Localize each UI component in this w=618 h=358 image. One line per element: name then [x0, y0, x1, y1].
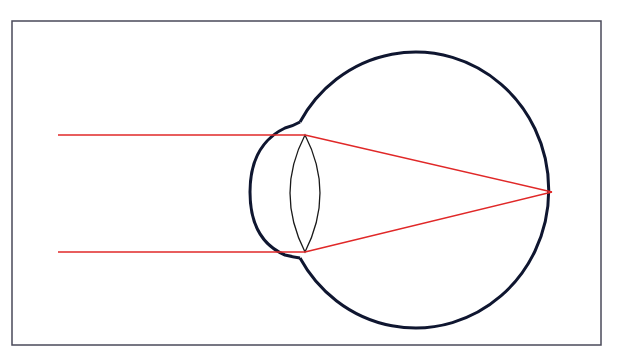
- eye-diagram: [0, 0, 618, 358]
